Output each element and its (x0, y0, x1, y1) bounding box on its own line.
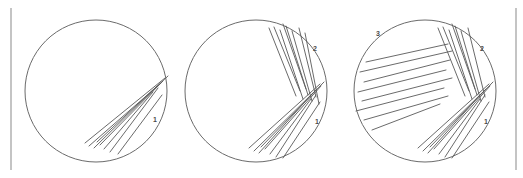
streak-line (283, 102, 320, 158)
third-streak-plate: 123 (354, 20, 496, 162)
streak-line (265, 86, 321, 149)
primary-streak-zone (249, 82, 324, 158)
streak-line (97, 76, 168, 142)
plates-group: 112123 (25, 20, 496, 162)
plate-outline (185, 20, 327, 162)
figure-canvas: 112123 (0, 0, 523, 178)
plate-outline (25, 20, 167, 162)
streak-line (434, 86, 490, 149)
zone-number-label: 1 (153, 116, 157, 123)
streak-line (366, 44, 448, 62)
streak-line (364, 96, 448, 120)
streak-line (445, 95, 485, 157)
zone-number-label: 1 (484, 118, 488, 125)
second-streak-plate: 12 (185, 20, 327, 162)
tertiary-streak-zone (356, 44, 452, 130)
streak-line (364, 60, 450, 82)
streak-line (452, 102, 489, 158)
zone-number-label: 3 (376, 30, 380, 37)
streak-plate-figure: 112123 (0, 0, 523, 178)
streak-line (270, 99, 311, 154)
streak-line (360, 51, 452, 72)
streak-line (358, 70, 446, 92)
first-streak-plate: 1 (25, 20, 168, 162)
zone-number-label: 2 (480, 45, 484, 52)
zone-number-label: 2 (313, 45, 317, 52)
streak-line (439, 99, 480, 154)
streak-line (110, 88, 158, 152)
secondary-streak-zone (438, 24, 485, 101)
streak-line (276, 95, 316, 157)
primary-streak-zone (418, 82, 493, 158)
zone-number-label: 1 (315, 118, 319, 125)
primary-streak-zone (85, 76, 168, 154)
plate-outline (354, 20, 496, 162)
